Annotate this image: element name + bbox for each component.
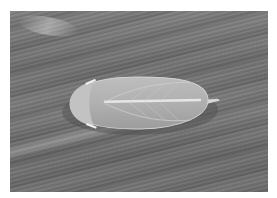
surface-highlight [17, 12, 79, 40]
insect-icon [59, 70, 222, 137]
photograph [10, 11, 268, 192]
insect [59, 70, 222, 137]
